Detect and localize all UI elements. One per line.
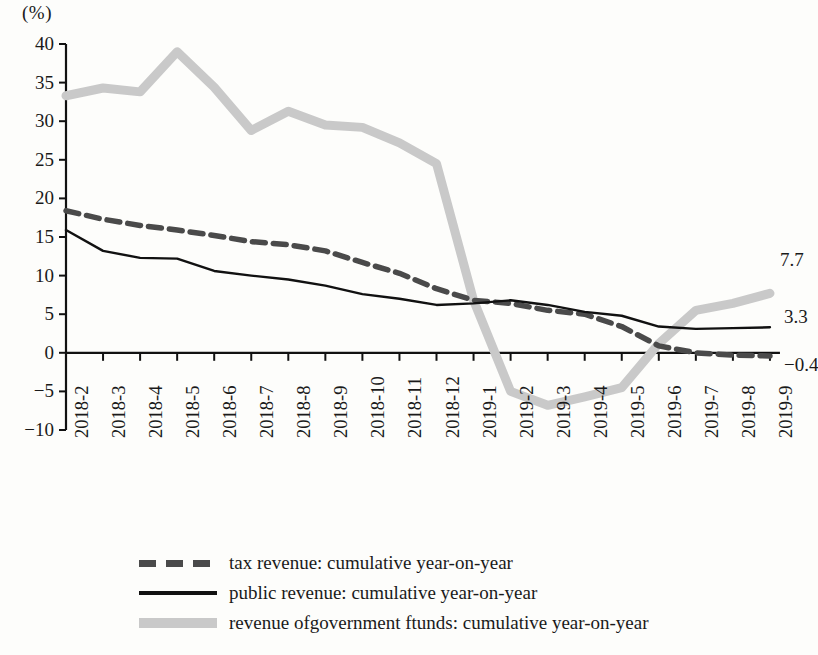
y-axis-tick-label: 5 — [8, 304, 54, 323]
x-axis-tick-label: 2018-6 — [221, 386, 240, 438]
legend-label-government-funds: revenue ofgovernment ftunds: cumulative … — [229, 612, 649, 634]
chart-legend: tax revenue: cumulative year-on-year pub… — [0, 548, 815, 638]
x-axis-tick-label: 2018-8 — [295, 386, 314, 438]
legend-item-government-funds: revenue ofgovernment ftunds: cumulative … — [0, 608, 815, 638]
x-axis-tick-label: 2019-7 — [703, 386, 722, 438]
legend-label-tax-revenue: tax revenue: cumulative year-on-year — [229, 552, 513, 574]
x-axis-tick-label: 2019-5 — [629, 386, 648, 438]
x-axis-tick-label: 2018-2 — [73, 386, 92, 438]
legend-item-tax-revenue: tax revenue: cumulative year-on-year — [0, 548, 815, 578]
x-axis-tick-label: 2019-4 — [592, 386, 611, 438]
x-axis-tick-label: 2018-4 — [147, 386, 166, 438]
y-axis-tick-label: 35 — [8, 73, 54, 92]
x-axis-tick-label: 2019-2 — [518, 386, 537, 438]
y-axis-tick-label: 40 — [8, 34, 54, 53]
legend-label-public-revenue: public revenue: cumulative year-on-year — [229, 582, 537, 604]
y-axis-tick-label: 25 — [8, 150, 54, 169]
y-axis-tick-label: −10 — [8, 420, 54, 439]
x-axis-tick-label: 2019-1 — [481, 386, 500, 438]
x-axis-tick-label: 2019-8 — [740, 386, 759, 438]
x-axis-tick-label: 2018-7 — [258, 386, 277, 438]
x-axis-tick-label: 2018-9 — [332, 386, 351, 438]
y-axis-tick-label: 10 — [8, 266, 54, 285]
y-axis-tick-label: −5 — [8, 381, 54, 400]
series-end-label: −0.4 — [784, 354, 818, 376]
legend-marker-dashed-icon — [139, 553, 217, 573]
series-end-label: 7.7 — [780, 249, 804, 271]
y-axis-tick-label: 20 — [8, 188, 54, 207]
x-axis-tick-label: 2018-11 — [406, 377, 425, 438]
x-axis-tick-label: 2019-6 — [666, 386, 685, 438]
x-axis-tick-label: 2018-5 — [184, 386, 203, 438]
x-axis-tick-label: 2019-3 — [555, 386, 574, 438]
x-axis-tick-label: 2018-12 — [444, 376, 463, 438]
x-axis-tick-label: 2019-9 — [777, 386, 796, 438]
legend-marker-solid-icon — [139, 583, 217, 603]
legend-item-public-revenue: public revenue: cumulative year-on-year — [0, 578, 815, 608]
legend-marker-thick-icon — [139, 613, 217, 633]
series-end-label: 3.3 — [784, 306, 808, 328]
y-axis-tick-label: 0 — [8, 343, 54, 362]
x-axis-tick-label: 2018-3 — [110, 386, 129, 438]
x-axis-tick-label: 2018-10 — [369, 376, 388, 438]
y-axis-tick-label: 15 — [8, 227, 54, 246]
y-axis-tick-label: 30 — [8, 111, 54, 130]
